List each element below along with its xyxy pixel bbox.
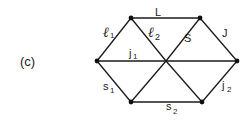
node-bottom-right: [200, 100, 205, 105]
label-l2-sub: 2: [155, 32, 160, 42]
label-s2-sub: 2: [173, 107, 178, 116]
hexagon-graph-diagram: (c) L ℓ 1 ℓ 2 S J j 1 s 1 s 2 j 2: [0, 0, 248, 120]
label-l2: ℓ: [148, 25, 154, 40]
edge-bottom-left-center: [131, 61, 166, 102]
label-L: L: [155, 6, 161, 18]
edge-S: [166, 18, 200, 61]
label-j2: j: [221, 79, 224, 91]
node-left: [95, 59, 100, 64]
edge-J: [200, 18, 237, 61]
edge-center-bottom-right: [166, 61, 202, 102]
label-j1: j: [128, 47, 131, 59]
node-right: [235, 59, 240, 64]
node-top-left: [129, 16, 134, 21]
node-top-right: [198, 16, 203, 21]
label-l1: ℓ: [103, 25, 109, 40]
label-s2: s: [166, 100, 172, 112]
label-j1-sub: 1: [133, 52, 138, 61]
label-l1-sub: 1: [110, 31, 115, 40]
label-J: J: [222, 27, 228, 39]
edge-j2: [202, 61, 237, 102]
label-S: S: [184, 32, 191, 44]
label-s1-sub: 1: [110, 86, 115, 95]
label-s1: s: [103, 80, 109, 92]
panel-label: (c): [20, 54, 35, 69]
node-bottom-left: [129, 100, 134, 105]
label-j2-sub: 2: [227, 85, 232, 94]
edges: [97, 18, 237, 102]
